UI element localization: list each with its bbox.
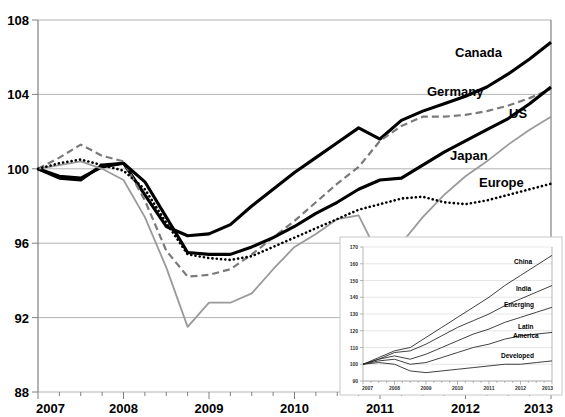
main-series-label-japan: Japan	[450, 148, 488, 163]
main-series-label-germany: Germany	[427, 84, 484, 99]
inset-series-label-emerging: Emerging	[504, 301, 534, 309]
inset-x-axis-tick-label: 2009	[420, 385, 431, 391]
main-x-axis-tick-label: 2011	[366, 401, 394, 416]
main-y-axis-tick-label: 96	[15, 236, 29, 251]
inset-x-axis-tick-label: 2008	[389, 385, 400, 391]
inset-y-axis-tick-label: 90	[352, 378, 358, 384]
main-y-axis-tick-label: 108	[7, 13, 29, 28]
main-y-axis-tick-label: 92	[15, 311, 29, 326]
main-series-label-us: US	[509, 106, 527, 121]
inset-x-axis-labels: 2007200820092010201120122013	[362, 385, 553, 391]
inset-y-axis-labels: 17016015014013012011010090	[350, 244, 359, 384]
main-y-axis-tick-label: 100	[7, 162, 29, 177]
main-x-axis-tick-label: 2012	[451, 401, 480, 416]
main-x-axis-tick-label: 2009	[195, 401, 224, 416]
chart-container: 108104100969288 200720082009201020112012…	[0, 0, 565, 417]
inset-y-axis-tick-label: 150	[350, 278, 359, 284]
main-series-label-europe: Europe	[479, 175, 524, 190]
inset-x-axis-tick-label: 2013	[542, 385, 553, 391]
inset-y-axis-tick-label: 120	[350, 328, 359, 334]
inset-series-label-india: India	[516, 285, 532, 292]
main-x-axis-tick-label: 2013	[524, 401, 553, 416]
inset-x-axis-tick-label: 2012	[515, 385, 526, 391]
inset-series-label-developed: Developed	[501, 352, 534, 360]
inset-series-label-america: America	[513, 332, 539, 339]
inset-y-axis-tick-label: 170	[350, 244, 359, 250]
inset-chart: 17016015014013012011010090 2007200820092…	[340, 237, 562, 395]
main-y-axis-tick-label: 88	[15, 385, 29, 400]
main-y-axis-tick-label: 104	[7, 87, 29, 102]
inset-series-label-china: China	[514, 258, 532, 265]
economic-recovery-line-chart: 108104100969288 200720082009201020112012…	[0, 0, 565, 417]
inset-x-axis-tick-label: 2010	[452, 385, 463, 391]
main-x-axis-tick-label: 2008	[109, 401, 138, 416]
inset-y-axis-tick-label: 140	[350, 294, 359, 300]
inset-y-axis-tick-label: 130	[350, 311, 359, 317]
inset-y-axis-tick-label: 110	[350, 345, 358, 351]
main-x-axis-labels: 2007200820092010201120122013	[36, 401, 553, 416]
inset-x-axis-tick-label: 2007	[362, 385, 373, 391]
inset-series-label-latin: Latin	[518, 323, 534, 330]
main-series-label-canada: Canada	[455, 45, 503, 60]
inset-x-axis-tick-label: 2011	[484, 385, 495, 391]
inset-y-axis-tick-label: 160	[350, 261, 359, 267]
main-x-axis-tick-label: 2007	[36, 401, 65, 416]
main-x-axis-tick-label: 2010	[280, 401, 309, 416]
inset-y-axis-tick-label: 100	[350, 361, 359, 367]
